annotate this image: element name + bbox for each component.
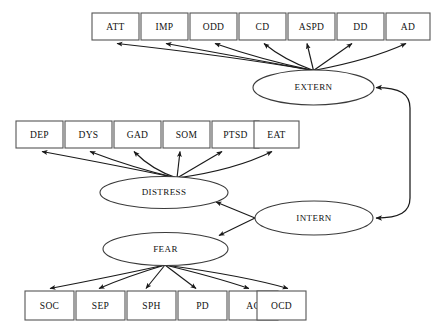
indicator-box-sph[interactable]: SPH — [127, 291, 176, 320]
distress-loading-arrows — [42, 152, 272, 179]
indicator-label-ad: AD — [401, 22, 415, 32]
indicator-label-cd: CD — [256, 22, 270, 32]
arrow-distress-to-eat — [177, 152, 272, 179]
arrow-distress-to-som — [177, 152, 180, 179]
indicator-box-ptsd[interactable]: PTSD — [212, 121, 259, 148]
latent-label-distress: DISTRESS — [142, 187, 187, 197]
indicator-box-dys[interactable]: DYS — [65, 121, 112, 148]
indicator-label-sph: SPH — [142, 301, 160, 311]
latent-label-fear: FEAR — [153, 244, 178, 254]
path-diagram-canvas: ATT IMP ODD CD ASPD DD — [0, 0, 436, 336]
indicator-label-aspd: ASPD — [299, 22, 325, 32]
indicator-label-ocd: OCD — [271, 301, 292, 311]
externalizing-indicator-row: ATT IMP ODD CD ASPD DD — [92, 13, 430, 40]
indicator-box-dd[interactable]: DD — [337, 13, 384, 40]
latent-label-intern: INTERN — [296, 213, 331, 223]
arrow-extern-to-aspd — [307, 44, 314, 71]
indicator-label-dep: DEP — [30, 130, 49, 140]
intern-structural-arrows — [216, 202, 255, 236]
indicator-label-pd: PD — [196, 301, 209, 311]
arrow-extern-to-ad — [314, 44, 407, 71]
indicator-label-sep: SEP — [92, 301, 109, 311]
arrow-intern-to-fear — [219, 218, 255, 236]
indicator-box-som[interactable]: SOM — [163, 121, 210, 148]
indicator-label-som: SOM — [176, 130, 198, 140]
indicator-box-sep[interactable]: SEP — [76, 291, 125, 320]
arrow-fear-to-ocd — [165, 265, 288, 289]
arrow-distress-to-dys — [90, 152, 177, 179]
latent-label-extern: EXTERN — [295, 82, 333, 92]
latent-factor-extern[interactable]: EXTERN — [253, 70, 374, 105]
indicator-box-odd[interactable]: ODD — [190, 13, 237, 40]
fear-loading-arrows — [50, 265, 288, 289]
arrow-intern-to-distress — [216, 202, 255, 218]
indicator-label-gad: GAD — [127, 130, 148, 140]
indicator-label-imp: IMP — [156, 22, 174, 32]
indicator-box-pd[interactable]: PD — [178, 291, 227, 320]
indicator-box-soc[interactable]: SOC — [25, 291, 74, 320]
indicator-box-cd[interactable]: CD — [239, 13, 286, 40]
latent-factor-fear[interactable]: FEAR — [103, 233, 228, 266]
indicator-box-ocd[interactable]: OCD — [257, 291, 306, 320]
indicator-box-aspd[interactable]: ASPD — [288, 13, 335, 40]
indicator-box-att[interactable]: ATT — [92, 13, 139, 40]
path-diagram-svg: ATT IMP ODD CD ASPD DD — [0, 0, 436, 336]
indicator-box-dep[interactable]: DEP — [16, 121, 63, 148]
indicator-label-dys: DYS — [79, 130, 99, 140]
latent-factor-distress[interactable]: DISTRESS — [100, 177, 228, 209]
arrow-extern-to-imp — [166, 44, 314, 71]
latent-factor-intern[interactable]: INTERN — [255, 201, 373, 235]
indicator-box-imp[interactable]: IMP — [141, 13, 188, 40]
fear-indicator-row: SOC SEP SPH PD AG OCD — [25, 291, 306, 320]
indicator-label-eat: EAT — [267, 130, 285, 140]
indicator-label-odd: ODD — [203, 22, 224, 32]
indicator-label-att: ATT — [106, 22, 124, 32]
indicator-box-ad[interactable]: AD — [386, 13, 430, 40]
extern-loading-arrows — [117, 44, 406, 71]
arrow-distress-to-dep — [42, 152, 177, 179]
indicator-label-soc: SOC — [40, 301, 59, 311]
indicator-box-eat[interactable]: EAT — [254, 121, 299, 148]
distress-indicator-row: DEP DYS GAD SOM PTSD EAT — [16, 121, 299, 148]
indicator-label-dd: DD — [353, 22, 367, 32]
covariance-extern-intern — [376, 88, 410, 219]
indicator-box-gad[interactable]: GAD — [114, 121, 161, 148]
indicator-label-ptsd: PTSD — [223, 130, 247, 140]
